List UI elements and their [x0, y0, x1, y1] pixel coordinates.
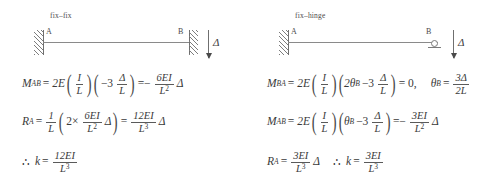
equation-moment-ab: MAB = 2E ( I L ) ( −3 Δ L ) =− 6EI L2 Δ	[22, 72, 248, 96]
denominator-exponent: 3	[302, 162, 306, 171]
fraction-numerator: I	[76, 72, 84, 85]
therefore-symbol: ∴	[22, 156, 30, 168]
fraction-numerator: 3EI	[410, 110, 429, 123]
eq-tail-delta: Δ	[313, 156, 320, 168]
fraction-1-over-l: 1 L	[46, 110, 56, 134]
eq-inner-coefficient: −3	[356, 116, 368, 128]
eq-tail-delta: Δ	[432, 116, 439, 128]
fraction-delta-over-l: Δ L	[378, 72, 388, 96]
node-label-b: B	[426, 27, 431, 36]
eq-lhs: M	[267, 116, 277, 128]
fraction-i-over-l: I L	[74, 72, 84, 96]
paren-close-icon: )	[332, 113, 337, 131]
eq-inner-coefficient: 2×	[66, 116, 78, 128]
panel-fix-hinge: fix–hinge A B Δ MBA = 2E ( I L ) ( 2θB −…	[245, 0, 489, 191]
paren-close-icon: )	[391, 75, 396, 93]
fraction-denominator: L2	[85, 123, 99, 135]
equation-moment-ba: MBA = 2E ( I L ) ( 2θB −3 Δ L ) = 0, θB …	[267, 72, 489, 96]
eq-lhs: k	[35, 156, 40, 168]
fraction-denominator: L	[46, 123, 56, 135]
hinge-support-icon	[431, 40, 438, 47]
paren-open-icon: (	[59, 113, 64, 131]
fraction-3delta-over-2l: 3Δ 2L	[453, 72, 468, 96]
eq-theta-sub: B	[355, 80, 360, 88]
eq-equals-3: =	[443, 78, 450, 90]
denominator-exponent: 3	[145, 122, 149, 131]
paren-open-icon: (	[67, 75, 72, 93]
fraction-i-over-l: I L	[319, 72, 329, 96]
equation-reaction-a: RA = 1 L ( 2× 6EI L2 Δ ) = 12EI L3 Δ	[22, 110, 248, 134]
eq-inner-coefficient: −3	[101, 78, 113, 90]
paren-open-icon: (	[338, 113, 343, 131]
fraction-denominator: L	[373, 123, 383, 135]
eq-equals: =	[36, 116, 43, 128]
fraction-denominator: L3	[137, 123, 151, 135]
eq-equals-negative: =−	[393, 116, 406, 128]
paren-open-icon: (	[312, 113, 317, 131]
eq-equals: =	[281, 156, 288, 168]
equation-stiffness-fix-fix: ∴ k = 12EI L3	[22, 150, 248, 174]
eq-lhs: R	[267, 156, 274, 168]
eq-theta-term: 2θ	[344, 78, 355, 90]
paren-close-icon: )	[87, 75, 92, 93]
beam-diagram-fix-fix: fix–fix A B Δ	[0, 8, 244, 70]
fraction-denominator: L3	[58, 163, 72, 175]
case-title-fix-hinge: fix–hinge	[295, 11, 326, 20]
eq-inner-coefficient: −3	[362, 78, 374, 90]
fraction-denominator: L	[319, 123, 329, 135]
eq-lhs-sub: A	[29, 118, 34, 126]
eq-equals-2: =	[353, 156, 360, 168]
denominator-exponent: 3	[374, 162, 378, 171]
fraction-6ei-over-l2: 6EI L2	[83, 110, 102, 134]
denominator-exponent: 2	[165, 84, 169, 93]
eq-theta-lhs-sub: B	[436, 80, 441, 88]
eq-lhs-sub: AB	[277, 118, 286, 126]
eq-coefficient: 2E	[52, 78, 65, 90]
eq-equals: =	[288, 116, 295, 128]
therefore-symbol: ∴	[333, 156, 341, 168]
paren-close-icon: )	[385, 113, 390, 131]
eq-lhs: M	[22, 78, 32, 90]
eq-stiffness-symbol: k	[346, 156, 351, 168]
paren-open-icon: (	[93, 75, 98, 93]
fraction-numerator: Δ	[378, 72, 388, 85]
eq-tail-delta: Δ	[159, 116, 166, 128]
fraction-denominator: L2	[413, 123, 427, 135]
eq-equals: =	[42, 156, 49, 168]
fraction-i-over-l: I L	[319, 110, 329, 134]
fraction-numerator: 1	[46, 110, 55, 123]
eq-lhs-sub: BA	[277, 80, 286, 88]
eq-lhs: M	[267, 78, 277, 90]
denominator-exponent: 2	[420, 122, 424, 131]
fraction-numerator: 3EI	[364, 150, 383, 163]
eq-inner-delta: Δ	[105, 116, 112, 128]
node-label-a: A	[46, 27, 52, 36]
case-title-fix-fix: fix–fix	[50, 11, 72, 20]
fraction-denominator: L	[74, 85, 84, 97]
fixed-support-left-icon	[34, 30, 43, 55]
displacement-label: Δ	[458, 36, 464, 48]
fraction-denominator: L	[378, 85, 388, 97]
fraction-numerator: 12EI	[53, 150, 77, 163]
paren-open-icon: (	[312, 75, 317, 93]
fraction-numerator: 6EI	[155, 72, 174, 85]
fraction-3ei-over-l2: 3EI L2	[410, 110, 429, 134]
beam-diagram-fix-hinge: fix–hinge A B Δ	[245, 8, 489, 70]
eq-equals: =	[43, 78, 50, 90]
hinge-support-base-icon	[428, 47, 441, 48]
fraction-denominator: L	[117, 85, 127, 97]
eq-equals: =	[288, 78, 295, 90]
denominator-exponent: 2	[93, 122, 97, 131]
node-label-a: A	[291, 27, 297, 36]
denominator-exponent: 3	[66, 162, 70, 171]
fraction-3ei-over-l3: 3EI L3	[291, 150, 310, 174]
fraction-numerator: Δ	[117, 72, 127, 85]
fraction-denominator: L2	[157, 85, 171, 97]
fraction-delta-over-l: Δ L	[117, 72, 127, 96]
displacement-arrow-icon	[453, 30, 454, 58]
eq-lhs-sub: A	[274, 158, 279, 166]
paren-close-icon: )	[113, 113, 118, 131]
beam-member	[288, 42, 438, 43]
eq-coefficient: 2E	[297, 116, 310, 128]
panel-fix-fix: fix–fix A B Δ MAB = 2E ( I L ) ( −3	[0, 0, 244, 191]
